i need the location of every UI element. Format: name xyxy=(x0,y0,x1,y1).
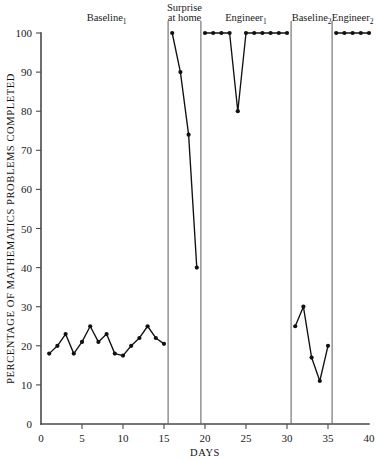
data-point xyxy=(88,324,92,328)
data-point xyxy=(310,355,314,359)
y-tick-label: 30 xyxy=(21,301,33,313)
data-point xyxy=(203,31,207,35)
y-tick-label: 20 xyxy=(21,340,33,352)
data-point xyxy=(105,332,109,336)
chart-container: 0102030405060708090100 0510152025303540 … xyxy=(0,0,385,460)
data-point xyxy=(211,31,215,35)
data-point xyxy=(121,353,125,357)
y-axis-title: PERCENTAGE OF MATHEMATICS PROBLEMS COMPL… xyxy=(5,73,16,384)
data-point xyxy=(318,379,322,383)
x-tick-label: 15 xyxy=(159,432,171,444)
y-tick-label: 70 xyxy=(21,144,33,156)
data-point xyxy=(293,324,297,328)
data-point xyxy=(285,31,289,35)
data-point xyxy=(326,344,330,348)
x-tick-label: 30 xyxy=(282,432,294,444)
phase-label-baseline-2: Baseline2 xyxy=(292,12,332,26)
series-line-baseline-1 xyxy=(49,326,164,355)
y-tick-label: 60 xyxy=(21,183,33,195)
data-point xyxy=(154,336,158,340)
y-axis: 0102030405060708090100 xyxy=(16,27,42,430)
data-point xyxy=(236,109,240,113)
x-tick-label: 20 xyxy=(200,432,212,444)
data-series-group xyxy=(47,31,371,383)
series-line-baseline-2 xyxy=(295,307,328,381)
phase-label-subscript: 1 xyxy=(123,17,127,26)
data-point xyxy=(260,31,264,35)
data-point xyxy=(178,70,182,74)
x-tick-label: 0 xyxy=(38,432,44,444)
data-point xyxy=(72,352,76,356)
x-tick-label: 40 xyxy=(364,432,376,444)
data-point xyxy=(351,31,355,35)
phase-series-surprise-at-home xyxy=(170,31,199,270)
data-point xyxy=(162,342,166,346)
data-point xyxy=(301,305,305,309)
phase-series-baseline-1 xyxy=(47,324,166,358)
y-tick-label: 100 xyxy=(16,27,33,39)
phase-label-subscript: 1 xyxy=(263,17,267,26)
data-point xyxy=(146,324,150,328)
data-point xyxy=(252,31,256,35)
phase-label-engineer-1: Engineer1 xyxy=(225,12,267,26)
phase-label-baseline-1: Baseline1 xyxy=(87,12,127,26)
y-tick-label: 90 xyxy=(21,66,33,78)
x-tick-label: 5 xyxy=(79,432,85,444)
phase-label-subscript: 2 xyxy=(370,17,374,26)
data-point xyxy=(277,31,281,35)
data-point xyxy=(113,352,117,356)
y-tick-label: 10 xyxy=(21,379,33,391)
data-point xyxy=(334,31,338,35)
data-point xyxy=(359,31,363,35)
phase-series-engineer-2 xyxy=(334,31,371,35)
data-point xyxy=(129,344,133,348)
data-point xyxy=(55,344,59,348)
data-point xyxy=(342,31,346,35)
phase-series-baseline-2 xyxy=(293,305,330,383)
y-tick-label: 0 xyxy=(27,418,33,430)
data-point xyxy=(367,31,371,35)
data-point xyxy=(269,31,273,35)
series-line-engineer-1 xyxy=(205,33,287,111)
x-tick-label: 10 xyxy=(118,432,130,444)
y-tick-label: 50 xyxy=(21,223,33,235)
phase-label-surprise-at-home-line2: at home xyxy=(168,12,202,23)
x-tick-label: 25 xyxy=(241,432,253,444)
multiple-baseline-line-chart: 0102030405060708090100 0510152025303540 … xyxy=(0,0,385,460)
data-point xyxy=(170,31,174,35)
x-tick-label: 35 xyxy=(323,432,335,444)
phase-labels: Baseline1Surpriseat homeEngineer1Baselin… xyxy=(87,2,374,26)
data-point xyxy=(47,352,51,356)
data-point xyxy=(244,31,248,35)
data-point xyxy=(195,266,199,270)
phase-dividers xyxy=(168,21,332,424)
y-tick-label: 40 xyxy=(21,262,33,274)
data-point xyxy=(137,336,141,340)
phase-label-engineer-2: Engineer2 xyxy=(332,12,374,26)
data-point xyxy=(219,31,223,35)
x-axis: 0510152025303540 xyxy=(38,424,375,444)
data-point xyxy=(96,340,100,344)
y-tick-label: 80 xyxy=(21,105,33,117)
data-point xyxy=(187,133,191,137)
data-point xyxy=(80,340,84,344)
x-axis-title: DAYS xyxy=(190,447,220,458)
series-line-surprise-at-home xyxy=(172,33,197,268)
data-point xyxy=(228,31,232,35)
phase-series-engineer-1 xyxy=(203,31,289,113)
data-point xyxy=(64,332,68,336)
